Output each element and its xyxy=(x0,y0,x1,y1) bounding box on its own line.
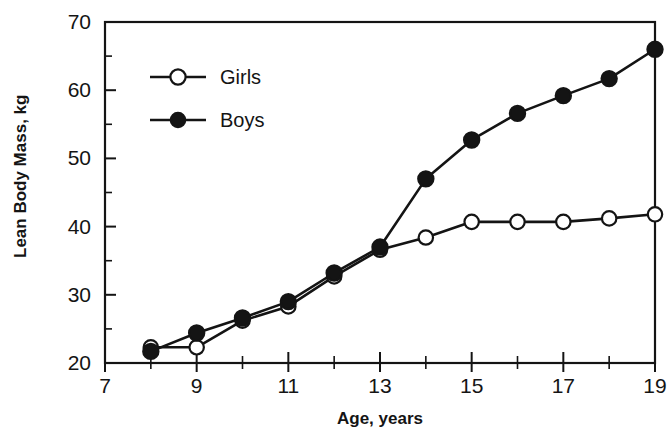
data-point-boys xyxy=(464,132,479,147)
data-point-boys xyxy=(281,294,296,309)
legend-label: Girls xyxy=(220,66,261,88)
data-point-girls xyxy=(419,230,433,244)
x-tick-label: 15 xyxy=(460,374,483,397)
y-tick-label: 20 xyxy=(68,351,91,374)
data-point-boys xyxy=(647,42,662,57)
legend-item-girls: Girls xyxy=(150,66,261,88)
data-point-girls xyxy=(556,215,570,229)
x-tick-label: 19 xyxy=(643,374,666,397)
chart-figure: Lean Body Mass, kg Age, years 2030405060… xyxy=(0,0,668,443)
y-axis-title: Lean Body Mass, kg xyxy=(11,95,30,258)
data-point-boys xyxy=(602,71,617,86)
data-point-boys xyxy=(510,106,525,121)
x-tick-label: 11 xyxy=(277,374,299,397)
data-point-boys xyxy=(418,171,433,186)
data-point-girls xyxy=(602,211,616,225)
y-tick-marks xyxy=(105,22,116,363)
legend-marker xyxy=(170,69,185,84)
series-line-boys xyxy=(151,49,655,351)
x-tick-labels: 791113151719 xyxy=(99,374,667,397)
plot-frame xyxy=(105,22,655,363)
x-tick-label: 7 xyxy=(99,374,111,397)
legend-item-boys: Boys xyxy=(150,109,264,131)
series-layer xyxy=(143,42,662,359)
series-line-girls xyxy=(151,214,655,347)
y-tick-label: 70 xyxy=(68,10,91,33)
y-tick-label: 50 xyxy=(68,146,91,169)
data-point-boys xyxy=(189,325,204,340)
legend-marker xyxy=(171,113,185,127)
x-tick-label: 9 xyxy=(191,374,203,397)
data-point-boys xyxy=(556,88,571,103)
y-tick-label: 60 xyxy=(68,78,91,101)
chart-legend: GirlsBoys xyxy=(150,66,264,131)
data-point-boys xyxy=(327,265,342,280)
data-point-girls xyxy=(189,340,203,354)
y-tick-label: 40 xyxy=(68,215,91,238)
data-point-boys xyxy=(235,310,250,325)
x-tick-label: 17 xyxy=(552,374,575,397)
x-axis-title: Age, years xyxy=(337,409,423,428)
data-point-boys xyxy=(143,344,158,359)
data-point-girls xyxy=(648,207,662,221)
lean-body-mass-line-chart: Lean Body Mass, kg Age, years 2030405060… xyxy=(0,0,668,443)
x-tick-label: 13 xyxy=(368,374,391,397)
data-point-girls xyxy=(510,215,524,229)
data-point-boys xyxy=(372,239,387,254)
y-tick-label: 30 xyxy=(68,283,91,306)
data-point-girls xyxy=(464,215,478,229)
y-tick-labels: 203040506070 xyxy=(68,10,91,374)
legend-label: Boys xyxy=(220,109,264,131)
